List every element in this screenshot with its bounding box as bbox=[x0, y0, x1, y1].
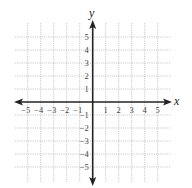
y-tick-label: 4 bbox=[84, 45, 89, 55]
x-tick-label: −4 bbox=[34, 105, 44, 115]
coordinate-plane: −5−4−3−2−11234554321−1−2−3−4−5 x y bbox=[0, 0, 192, 188]
x-tick-label: 2 bbox=[117, 105, 121, 115]
x-axis-label: x bbox=[173, 94, 180, 108]
y-tick-label: −1 bbox=[80, 110, 89, 120]
x-tick-label: 5 bbox=[156, 105, 160, 115]
x-tick-label: 3 bbox=[130, 105, 134, 115]
axes bbox=[14, 20, 172, 186]
y-tick-label: 5 bbox=[84, 32, 88, 42]
y-tick-label: −2 bbox=[80, 123, 89, 133]
y-tick-label: −5 bbox=[80, 162, 89, 172]
x-tick-label: −3 bbox=[47, 105, 56, 115]
y-tick-label: 2 bbox=[84, 71, 88, 81]
x-tick-label: 4 bbox=[143, 105, 148, 115]
y-axis-label: y bbox=[88, 6, 95, 20]
y-tick-label: 3 bbox=[84, 58, 88, 68]
x-tick-label: −2 bbox=[60, 105, 69, 115]
x-tick-label: 1 bbox=[104, 105, 108, 115]
x-tick-label: −5 bbox=[21, 105, 30, 115]
y-tick-label: −4 bbox=[80, 149, 90, 159]
y-tick-label: 1 bbox=[84, 84, 88, 94]
y-tick-label: −3 bbox=[80, 136, 89, 146]
